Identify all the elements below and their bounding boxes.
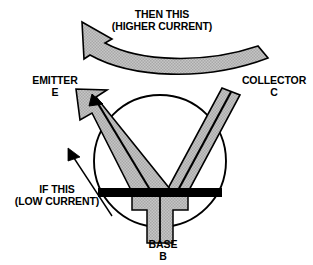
collector-band bbox=[165, 88, 240, 194]
label-collector-line2: C bbox=[236, 86, 312, 98]
label-base-line2: B bbox=[140, 250, 186, 262]
label-emitter-line1: EMITTER bbox=[22, 74, 88, 86]
label-if-this-line2: (LOW CURRENT) bbox=[8, 195, 106, 207]
label-then-this: THEN THIS (HIGHER CURRENT) bbox=[97, 8, 227, 33]
label-collector: COLLECTOR C bbox=[236, 74, 312, 99]
label-emitter: EMITTER E bbox=[22, 74, 88, 99]
label-emitter-line2: E bbox=[22, 86, 88, 98]
label-collector-line1: COLLECTOR bbox=[236, 74, 312, 86]
label-then-this-line2: (HIGHER CURRENT) bbox=[97, 20, 227, 32]
label-if-this: IF THIS (LOW CURRENT) bbox=[8, 183, 106, 208]
label-if-this-line1: IF THIS bbox=[8, 183, 106, 195]
label-then-this-line1: THEN THIS bbox=[97, 8, 227, 20]
label-base-line1: BASE bbox=[140, 238, 186, 250]
transistor-diagram: THEN THIS (HIGHER CURRENT) EMITTER E COL… bbox=[0, 0, 313, 265]
transistor-diagram-svg bbox=[0, 0, 313, 265]
label-base: BASE B bbox=[140, 238, 186, 263]
